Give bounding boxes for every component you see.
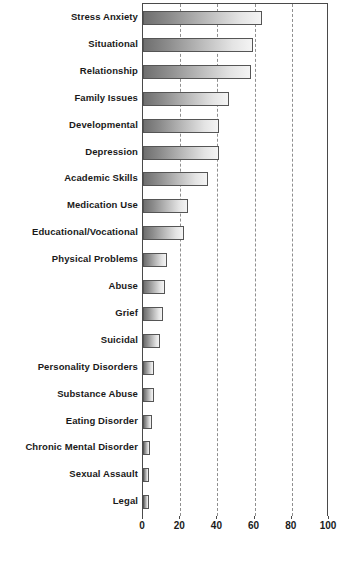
category-label-11: Grief: [0, 306, 138, 320]
bar-2: [143, 65, 251, 79]
tick-label-40: 40: [211, 520, 222, 531]
bar-chart: Stress AnxietySituationalRelationshipFam…: [0, 0, 353, 562]
bar-5: [143, 146, 219, 160]
bar-11: [143, 307, 163, 321]
tick-label-60: 60: [248, 520, 259, 531]
bar-4: [143, 119, 219, 133]
tick-mark-0: [142, 516, 143, 519]
category-label-12: Suicidal: [0, 333, 138, 347]
bar-fill: [143, 334, 160, 348]
bar-fill: [143, 361, 154, 375]
category-label-16: Chronic Mental Disorder: [0, 440, 138, 454]
x-axis-tick-labels: 020406080100: [0, 520, 353, 540]
tick-label-100: 100: [320, 520, 337, 531]
plot-area: [142, 3, 328, 516]
bar-7: [143, 199, 188, 213]
tick-label-80: 80: [285, 520, 296, 531]
bar-18: [143, 495, 149, 509]
bar-fill: [143, 199, 188, 213]
category-label-2: Relationship: [0, 64, 138, 78]
bar-6: [143, 172, 208, 186]
bar-fill: [143, 119, 219, 133]
bar-8: [143, 226, 184, 240]
bar-15: [143, 415, 152, 429]
bar-1: [143, 38, 253, 52]
tick-mark-100: [328, 516, 329, 519]
bar-fill: [143, 468, 149, 482]
bar-fill: [143, 65, 251, 79]
bar-17: [143, 468, 149, 482]
bar-fill: [143, 388, 154, 402]
category-label-0: Stress Anxiety: [0, 10, 138, 24]
bar-fill: [143, 226, 184, 240]
bar-fill: [143, 38, 253, 52]
bar-fill: [143, 441, 150, 455]
category-label-14: Substance Abuse: [0, 387, 138, 401]
tick-mark-60: [254, 516, 255, 519]
bar-10: [143, 280, 165, 294]
category-label-8: Educational/Vocational: [0, 225, 138, 239]
bar-fill: [143, 146, 219, 160]
bar-13: [143, 361, 154, 375]
category-label-3: Family Issues: [0, 91, 138, 105]
bar-0: [143, 11, 262, 25]
bar-fill: [143, 280, 165, 294]
category-label-7: Medication Use: [0, 198, 138, 212]
category-label-6: Academic Skills: [0, 171, 138, 185]
tick-label-0: 0: [139, 520, 145, 531]
bar-16: [143, 441, 150, 455]
bar-fill: [143, 495, 149, 509]
bar-fill: [143, 172, 208, 186]
category-label-13: Personality Disorders: [0, 360, 138, 374]
bar-fill: [143, 415, 152, 429]
bar-12: [143, 334, 160, 348]
bar-9: [143, 253, 167, 267]
category-label-9: Physical Problems: [0, 252, 138, 266]
category-label-15: Eating Disorder: [0, 414, 138, 428]
category-label-17: Sexual Assault: [0, 467, 138, 481]
category-label-18: Legal: [0, 494, 138, 508]
tick-mark-40: [216, 516, 217, 519]
tick-mark-80: [291, 516, 292, 519]
category-label-4: Developmental: [0, 118, 138, 132]
bar-fill: [143, 307, 163, 321]
category-label-5: Depression: [0, 145, 138, 159]
bar-fill: [143, 11, 262, 25]
category-label-1: Situational: [0, 37, 138, 51]
bar-3: [143, 92, 229, 106]
category-label-10: Abuse: [0, 279, 138, 293]
bar-14: [143, 388, 154, 402]
bar-fill: [143, 92, 229, 106]
tick-mark-20: [179, 516, 180, 519]
bar-rows: [143, 4, 327, 516]
bar-fill: [143, 253, 167, 267]
tick-label-20: 20: [174, 520, 185, 531]
